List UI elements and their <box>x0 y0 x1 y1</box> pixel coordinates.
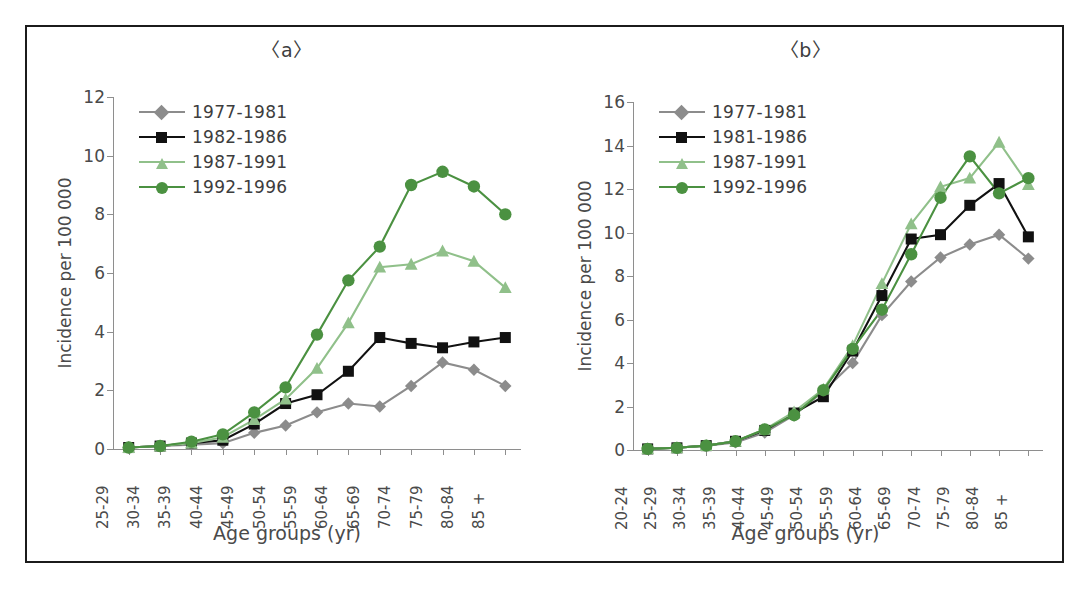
panel-b-x-axis-label: Age groups (yr) <box>547 522 1064 544</box>
panel-a-title: 〈a〉 <box>27 35 547 62</box>
legend-label: 1987-1991 <box>712 152 807 172</box>
x-tick-label: 85 + <box>993 460 1011 530</box>
x-tick-label: 50-54 <box>251 459 269 529</box>
y-tick-label: 12 <box>577 179 625 199</box>
legend-marker-diamond-icon <box>139 104 185 120</box>
x-tick-label: 55-59 <box>282 459 300 529</box>
legend-item-1982-1986[interactable]: 1982-1986 <box>139 124 287 149</box>
y-tick-label: 10 <box>57 146 105 166</box>
y-tick-label: 8 <box>577 266 625 286</box>
x-tick-mark <box>348 449 349 455</box>
x-tick-mark <box>223 449 224 455</box>
legend-item-1981-1986[interactable]: 1981-1986 <box>659 124 807 149</box>
legend-marker-diamond-icon <box>659 104 705 120</box>
y-tick-label: 16 <box>577 92 625 112</box>
x-tick-mark <box>286 449 287 455</box>
x-tick-mark <box>317 449 318 455</box>
legend-marker-circle-icon <box>139 179 185 195</box>
x-tick-label: 60-64 <box>847 460 865 530</box>
y-tick-label: 4 <box>57 322 105 342</box>
x-tick-mark <box>765 450 766 456</box>
legend-marker-triangle-icon <box>139 154 185 170</box>
series-line <box>129 362 506 447</box>
y-tick-mark <box>107 449 113 450</box>
x-tick-label: 50-54 <box>788 460 806 530</box>
legend-marker-square-icon <box>139 129 185 145</box>
legend-label: 1982-1986 <box>192 127 287 147</box>
x-tick-label: 75-79 <box>408 459 426 529</box>
x-tick-label: 30-34 <box>671 460 689 530</box>
x-tick-mark <box>505 449 506 455</box>
legend-marker-square-icon <box>659 129 705 145</box>
x-tick-label: 20-24 <box>613 460 631 530</box>
x-tick-label: 70-74 <box>376 459 394 529</box>
panel-a-x-axis-label: Age groups (yr) <box>27 522 547 544</box>
x-tick-mark <box>853 450 854 456</box>
legend-marker-triangle-icon <box>659 154 705 170</box>
x-tick-mark <box>970 450 971 456</box>
series-line <box>648 184 1029 449</box>
x-tick-mark <box>941 450 942 456</box>
x-tick-mark <box>794 450 795 456</box>
legend-item-1977-1981[interactable]: 1977-1981 <box>659 99 807 124</box>
legend-label: 1992-1996 <box>192 177 287 197</box>
x-tick-mark <box>443 449 444 455</box>
y-tick-label: 2 <box>577 397 625 417</box>
x-tick-mark <box>736 450 737 456</box>
legend-item-1987-1991[interactable]: 1987-1991 <box>139 149 287 174</box>
legend-item-1992-1996[interactable]: 1992-1996 <box>659 174 807 199</box>
y-tick-label: 12 <box>57 87 105 107</box>
y-tick-label: 0 <box>57 439 105 459</box>
x-tick-label: 40-44 <box>188 459 206 529</box>
x-tick-label: 80-84 <box>964 460 982 530</box>
y-tick-label: 0 <box>577 440 625 460</box>
x-tick-mark <box>474 449 475 455</box>
x-tick-label: 60-64 <box>313 459 331 529</box>
y-tick-label: 2 <box>57 380 105 400</box>
x-tick-mark <box>999 450 1000 456</box>
x-tick-label: 55-59 <box>818 460 836 530</box>
x-tick-mark <box>882 450 883 456</box>
x-tick-label: 65-69 <box>876 460 894 530</box>
y-tick-label: 8 <box>57 204 105 224</box>
legend-item-1977-1981[interactable]: 1977-1981 <box>139 99 287 124</box>
legend-label: 1992-1996 <box>712 177 807 197</box>
x-tick-label: 80-84 <box>439 459 457 529</box>
legend-label: 1981-1986 <box>712 127 807 147</box>
x-tick-mark <box>411 449 412 455</box>
panel-a-legend: 1977-19811982-19861987-19911992-1996 <box>139 99 287 199</box>
legend-item-1987-1991[interactable]: 1987-1991 <box>659 149 807 174</box>
x-tick-label: 35-39 <box>701 460 719 530</box>
figure-frame: 〈a〉 Incidence per 100 000 02468101225-29… <box>25 25 1064 563</box>
legend-marker-circle-icon <box>659 179 705 195</box>
x-tick-label: 45-49 <box>219 459 237 529</box>
panel-b-legend: 1977-19811981-19861987-19911992-1996 <box>659 99 807 199</box>
legend-item-1992-1996[interactable]: 1992-1996 <box>139 174 287 199</box>
legend-label: 1987-1991 <box>192 152 287 172</box>
x-tick-label: 40-44 <box>730 460 748 530</box>
x-tick-label: 25-29 <box>642 460 660 530</box>
x-tick-label: 85 + <box>470 459 488 529</box>
series-line <box>648 235 1029 449</box>
x-tick-mark <box>911 450 912 456</box>
x-tick-label: 30-34 <box>125 459 143 529</box>
x-tick-mark <box>380 449 381 455</box>
x-tick-mark <box>1028 450 1029 456</box>
y-tick-mark <box>627 450 633 451</box>
chart-panel-b: 〈b〉 Incidence per 100 000 02468101214162… <box>547 27 1064 561</box>
legend-label: 1977-1981 <box>192 102 287 122</box>
y-tick-label: 10 <box>577 223 625 243</box>
chart-panel-a: 〈a〉 Incidence per 100 000 02468101225-29… <box>27 27 547 561</box>
x-tick-mark <box>254 449 255 455</box>
x-tick-label: 45-49 <box>759 460 777 530</box>
x-tick-label: 75-79 <box>935 460 953 530</box>
y-tick-label: 4 <box>577 353 625 373</box>
x-axis-line <box>633 450 1043 451</box>
y-tick-label: 6 <box>57 263 105 283</box>
x-tick-label: 25-29 <box>94 459 112 529</box>
x-tick-label: 35-39 <box>156 459 174 529</box>
legend-label: 1977-1981 <box>712 102 807 122</box>
x-tick-mark <box>823 450 824 456</box>
y-tick-label: 14 <box>577 136 625 156</box>
y-tick-label: 6 <box>577 310 625 330</box>
